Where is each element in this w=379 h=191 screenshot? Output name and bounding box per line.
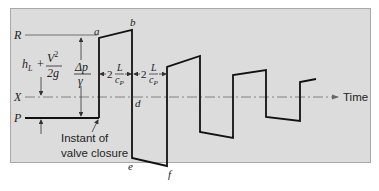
- svg-text:cP: cP: [149, 74, 158, 87]
- label-X: X: [13, 90, 22, 104]
- svg-text:γ: γ: [78, 74, 83, 88]
- svg-text:Δp: Δp: [74, 60, 88, 74]
- svg-text:hL: hL: [22, 57, 33, 73]
- closure-pointer: [92, 120, 98, 132]
- closure-annotation-line1: Instant of: [61, 132, 109, 144]
- point-d: d: [135, 97, 141, 109]
- period-label-2: 2 L cP: [134, 62, 166, 87]
- svg-text:+: +: [37, 57, 44, 71]
- svg-text:V2: V2: [47, 50, 58, 65]
- period-label-1: 2 L cP: [100, 62, 131, 87]
- label-P: P: [13, 111, 22, 125]
- head-loss-label: hL + V2 2g: [22, 50, 62, 80]
- closure-annotation-line2: valve closure: [61, 147, 128, 159]
- time-axis-label: Time: [343, 91, 368, 103]
- point-a: a: [94, 25, 100, 37]
- pressure-waveform: [99, 30, 316, 166]
- label-R: R: [13, 28, 22, 42]
- svg-text:2: 2: [141, 68, 147, 80]
- point-b: b: [130, 16, 136, 28]
- svg-text:cP: cP: [115, 74, 124, 87]
- svg-text:2: 2: [107, 68, 113, 80]
- point-e: e: [128, 160, 133, 172]
- svg-text:2g: 2g: [47, 66, 59, 80]
- delta-p-label: Δp γ: [74, 60, 91, 88]
- waterhammer-diagram: R X Time P a b d e f hL + V2 2g Δp γ 2 L…: [0, 0, 379, 191]
- point-f: f: [168, 168, 173, 180]
- svg-text:L: L: [116, 62, 123, 73]
- svg-text:L: L: [150, 62, 157, 73]
